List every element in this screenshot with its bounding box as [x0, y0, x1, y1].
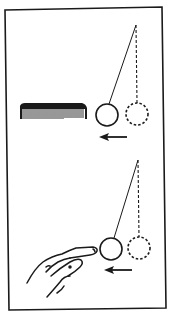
static-electricity-diagram — [0, 0, 179, 316]
